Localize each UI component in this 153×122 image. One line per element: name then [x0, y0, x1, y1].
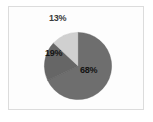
pie-chart-screenshot: 13% 19% 68%	[0, 0, 153, 122]
pie-label-68: 68%	[80, 66, 97, 75]
pie-chart: 13% 19% 68%	[0, 0, 153, 122]
pie-label-19: 19%	[45, 49, 62, 58]
pie-svg	[43, 31, 113, 101]
pie-label-13: 13%	[49, 14, 66, 23]
